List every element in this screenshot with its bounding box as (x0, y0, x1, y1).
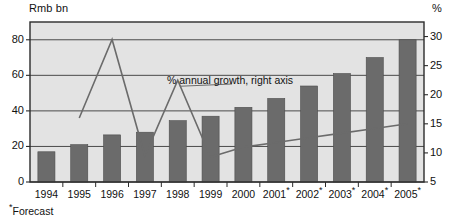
left-axis-tick-label: 40 (2, 104, 24, 116)
right-axis-tick-label: 15 (430, 117, 454, 129)
bar (399, 40, 416, 182)
bar (169, 121, 186, 182)
right-axis-tick-label: 30 (430, 30, 454, 42)
bar (104, 135, 121, 182)
left-axis-tick-label: 80 (2, 33, 24, 45)
x-axis-year-label: 2005* (389, 188, 427, 200)
bar (235, 107, 252, 182)
footnote: *Forecast (9, 205, 53, 217)
bar (38, 152, 55, 182)
bar (333, 74, 350, 182)
right-axis-tick-label: 20 (430, 88, 454, 100)
right-axis-tick-label: 10 (430, 146, 454, 158)
bar (366, 58, 383, 182)
footnote-text: Forecast (13, 205, 54, 217)
left-axis-tick-label: 60 (2, 68, 24, 80)
bar (301, 86, 318, 182)
bar (268, 98, 285, 182)
left-axis-tick-label: 0 (2, 175, 24, 187)
left-axis-tick-label: 20 (2, 139, 24, 151)
footnote-marker: * (9, 202, 13, 212)
right-axis-tick-label: 5 (430, 175, 454, 187)
growth-line-annotation: % annual growth, right axis (167, 74, 293, 86)
forecast-marker: * (418, 185, 422, 195)
right-axis-tick-label: 25 (430, 59, 454, 71)
bar (71, 145, 88, 182)
chart-container: Rmb bn % 020406080 51015202530 199419951… (0, 0, 458, 223)
bar (202, 116, 219, 182)
plot-background (30, 22, 424, 182)
